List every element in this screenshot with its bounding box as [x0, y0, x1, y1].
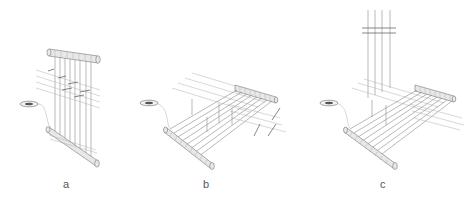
heddle-drops [372, 100, 386, 125]
panel-b: b [130, 0, 300, 203]
panel-label-b: b [203, 178, 209, 190]
near-warp-beam [164, 127, 215, 170]
side-threads [410, 104, 464, 130]
panel-label-a: a [63, 178, 69, 190]
panel-c: c [300, 0, 474, 203]
far-warp-beam [235, 85, 278, 103]
horizontal-loom-diagram [130, 0, 300, 203]
panel-label-c: c [380, 178, 386, 190]
weft-threads [36, 69, 100, 108]
overhead-loom-diagram [300, 0, 474, 203]
shuttle-icon [20, 101, 52, 130]
shuttle-icon [320, 100, 350, 128]
lower-warp-beam [46, 127, 99, 168]
overhead-threads [362, 10, 396, 98]
far-warp-beam [415, 85, 456, 102]
shuttle-icon [140, 100, 170, 128]
side-threads [228, 104, 286, 136]
